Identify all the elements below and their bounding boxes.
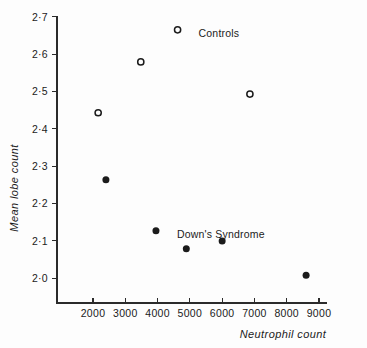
x-axis-title: Neutrophil count [240,328,327,340]
chart-figure: 2·02·12·22·32·42·52·62·7 200030004000500… [0,0,367,348]
series-annotations: ControlsDown's Syndrome [177,27,265,240]
data-points [95,27,310,279]
y-tick-label: 2·1 [32,235,48,247]
y-tick-label: 2·3 [32,160,48,172]
y-axis-ticks: 2·02·12·22·32·42·52·62·7 [32,11,57,285]
x-tick-label: 2000 [81,307,106,319]
x-axis-ticks: 20003000400050006000700080009000 [81,298,332,319]
x-tick-label: 7000 [242,307,267,319]
data-point-downs [183,245,190,252]
y-tick-label: 2·2 [32,197,48,209]
y-tick-label: 2·5 [32,85,48,97]
data-point-downs [102,176,109,183]
x-tick-label: 5000 [178,307,203,319]
scatter-plot: 2·02·12·22·32·42·52·62·7 200030004000500… [0,0,367,348]
data-point-downs [303,272,310,279]
y-tick-label: 2·4 [32,123,48,135]
x-tick-label: 8000 [274,307,299,319]
x-tick-label: 6000 [210,307,235,319]
y-tick-label: 2·6 [32,48,48,60]
axis-lines [57,16,327,303]
data-point-controls [174,27,180,33]
y-tick-label: 2·7 [32,11,48,23]
data-point-controls [138,59,144,65]
series-label-down-s-syndrome: Down's Syndrome [177,228,265,240]
series-label-controls: Controls [199,27,240,39]
y-tick-label: 2·0 [32,272,48,284]
data-point-controls [95,110,101,116]
data-point-controls [247,91,253,97]
x-tick-label: 3000 [113,307,138,319]
data-point-downs [152,227,159,234]
x-tick-label: 9000 [307,307,332,319]
x-tick-label: 4000 [145,307,170,319]
y-axis-title: Mean lobe count [8,144,20,232]
